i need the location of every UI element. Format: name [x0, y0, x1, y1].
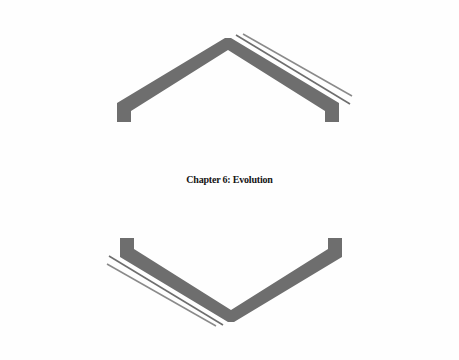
chevron-up-shape — [117, 38, 339, 122]
chevron-up-hairlines — [236, 34, 352, 104]
chevron-down-shape — [120, 238, 342, 322]
chevron-up-ornament — [0, 24, 459, 134]
page-title: Chapter 6: Evolution — [0, 150, 459, 210]
chapter-title-page: Chapter 6: Evolution — [0, 0, 459, 360]
chevron-down-ornament — [0, 226, 459, 336]
chevron-down-hairlines — [107, 256, 223, 326]
